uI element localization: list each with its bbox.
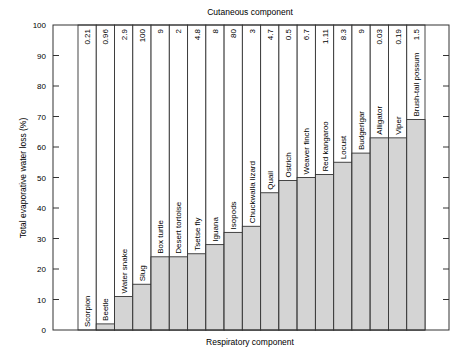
cutaneous-value-label: 0.21 [83,28,92,44]
category-label: Quail [266,171,275,190]
y-tick-label: 50 [37,174,46,183]
respiratory-segment [279,181,297,330]
cutaneous-segment [78,25,96,330]
respiratory-segment [224,232,242,330]
bar-group: Slug100 [133,25,151,330]
bar-group: Red kangaroo1.11 [315,25,333,330]
respiratory-segment [297,178,315,331]
category-label: Locust [339,135,348,159]
respiratory-segment [188,254,206,330]
bar-group: Box turtle9 [151,25,169,330]
category-label: Box turtle [156,219,165,253]
cutaneous-segment [96,25,114,330]
bar-group: Tsetse fly4.8 [188,25,206,330]
cutaneous-value-label: 2 [174,28,183,33]
respiratory-segment [115,296,133,330]
y-tick-label: 0 [42,326,47,335]
respiratory-segment [315,174,333,330]
category-label: Weaver finch [302,128,311,175]
category-label: Water snake [120,248,129,293]
cutaneous-value-label: 8.3 [339,28,348,40]
category-label: Budgerigar [357,111,366,150]
category-label: Tsetse fly [193,217,202,250]
category-label: Alligator [375,106,384,135]
bar-group: Water snake2.9 [115,25,133,330]
respiratory-segment [151,257,169,330]
cutaneous-value-label: 3 [248,28,257,33]
cutaneous-value-label: 6.7 [302,28,311,40]
cutaneous-value-label: 1.11 [321,28,330,44]
respiratory-segment [206,245,224,330]
category-label: Beetle [101,298,110,321]
respiratory-segment [96,324,114,330]
chart-title: Cutaneous component [207,7,293,17]
bar-group: Desert tortoise2 [169,25,187,330]
cutaneous-value-label: 0.5 [284,28,293,40]
y-tick-label: 90 [37,52,46,61]
category-label: Slug [138,265,147,281]
y-tick-label: 100 [33,21,47,30]
y-tick-label: 60 [37,143,46,152]
evaporative-water-loss-chart: Cutaneous component Respiratory componen… [0,0,473,347]
category-label: Chuckwalla lizard [248,161,257,223]
category-label: Red kangaroo [321,121,330,172]
respiratory-segment [242,226,260,330]
bar-group: Iguana8 [206,25,224,330]
cutaneous-value-label: 0.96 [101,28,110,44]
cutaneous-value-label: 8 [211,28,220,33]
bar-group: Beetle0.96 [96,25,114,330]
respiratory-segment [169,257,187,330]
y-tick-label: 20 [37,265,46,274]
category-label: Viper [394,116,403,135]
respiratory-segment [261,193,279,330]
bar-group: Isopods80 [224,25,242,330]
x-axis-label: Respiratory component [206,337,295,347]
respiratory-segment [133,284,151,330]
cutaneous-value-label: 2.9 [120,28,129,40]
bar-group: Locust8.3 [334,25,352,330]
respiratory-segment [407,120,425,330]
y-tick-label: 80 [37,82,46,91]
y-tick-label: 30 [37,235,46,244]
category-label: Desert tortoise [174,201,183,254]
y-tick-label: 40 [37,204,46,213]
bar-group: Scorpion0.21 [78,25,96,330]
cutaneous-value-label: 1.5 [412,28,421,40]
cutaneous-value-label: 9 [156,28,165,33]
y-axis-label: Total evaporative water loss (%) [18,118,28,239]
y-tick-label: 70 [37,113,46,122]
y-tick-label: 10 [37,296,46,305]
category-label: Ostrich [284,152,293,177]
respiratory-segment [334,162,352,330]
cutaneous-value-label: 0.03 [375,28,384,44]
cutaneous-value-label: 4.7 [266,28,275,40]
respiratory-segment [370,138,388,330]
category-label: Isopods [229,201,238,229]
bar-group: Alligator0.03 [370,25,388,330]
cutaneous-value-label: 9 [357,28,366,33]
bar-group: Quail4.7 [261,25,279,330]
bar-group: Weaver finch6.7 [297,25,315,330]
respiratory-segment [352,153,370,330]
bar-group: Brush-tail possum1.5 [407,25,425,330]
cutaneous-value-label: 0.19 [394,28,403,44]
category-label: Iguana [211,217,220,242]
category-label: Brush-tail possum [412,52,421,116]
cutaneous-value-label: 100 [138,28,147,42]
cutaneous-value-label: 4.8 [193,28,202,40]
bar-group: Chuckwalla lizard3 [242,25,260,330]
cutaneous-value-label: 80 [229,28,238,37]
bar-group: Budgerigar9 [352,25,370,330]
respiratory-segment [388,138,406,330]
category-label: Scorpion [83,295,92,327]
bar-group: Ostrich0.5 [279,25,297,330]
bars: Scorpion0.21Beetle0.96Water snake2.9Slug… [78,25,425,330]
bar-group: Viper0.19 [388,25,406,330]
